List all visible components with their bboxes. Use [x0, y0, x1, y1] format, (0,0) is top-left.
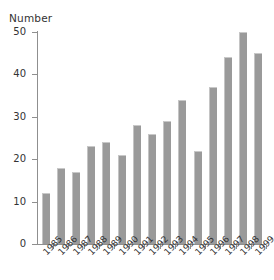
- y-tick-mark: [32, 74, 37, 75]
- y-tick-label: 0: [0, 239, 26, 249]
- bar: [57, 168, 65, 244]
- bar: [42, 193, 50, 244]
- y-tick-label: 30: [0, 112, 26, 122]
- bar: [163, 121, 171, 244]
- bar: [72, 172, 80, 244]
- bar: [239, 32, 247, 244]
- y-axis-line: [37, 31, 38, 245]
- bar: [209, 87, 217, 244]
- bar-chart: Number 01020304050 198519861987198819891…: [0, 0, 274, 280]
- bar: [224, 57, 232, 244]
- y-tick-label: 20: [0, 154, 26, 164]
- bar: [102, 142, 110, 244]
- bar: [133, 125, 141, 244]
- y-tick-mark: [32, 32, 37, 33]
- y-tick-label: 40: [0, 69, 26, 79]
- bar: [118, 155, 126, 244]
- bar: [194, 151, 202, 244]
- bar: [87, 146, 95, 244]
- y-tick-mark: [32, 244, 37, 245]
- y-tick-mark: [32, 202, 37, 203]
- y-tick-label: 50: [0, 27, 26, 37]
- y-axis-title: Number: [9, 12, 52, 24]
- y-tick-mark: [32, 159, 37, 160]
- y-tick-label: 10: [0, 197, 26, 207]
- y-tick-mark: [32, 117, 37, 118]
- bar: [178, 100, 186, 244]
- bar: [254, 53, 262, 244]
- bar: [148, 134, 156, 244]
